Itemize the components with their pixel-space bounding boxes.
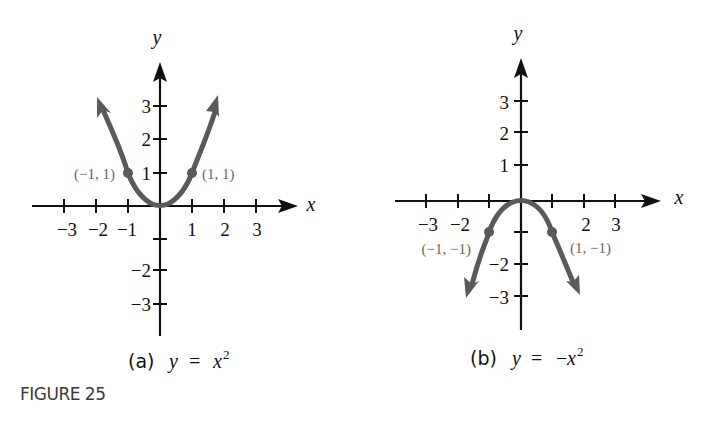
parabola-curve	[472, 201, 573, 285]
caption-b: (b) y = − x 2	[470, 344, 584, 370]
caption-letter: (a)	[128, 350, 154, 372]
x-tick-label: 2	[220, 219, 230, 240]
y-tick-label: 2	[142, 129, 152, 150]
panel-a: −3 −2 −1 1 2 3 3 2 1 −2 −3 x y (−1, 1) (…	[32, 26, 316, 373]
x-tick-label: 3	[252, 219, 262, 240]
caption-minus-sign: −	[556, 347, 567, 369]
caption-exponent: 2	[577, 344, 584, 359]
y-tick-label: 3	[500, 92, 510, 113]
figure-canvas: −3 −2 −1 1 2 3 3 2 1 −2 −3 x y (−1, 1) (…	[0, 0, 714, 422]
x-tick-label: 3	[611, 214, 621, 235]
y-axis-label: y	[512, 22, 523, 45]
caption-exponent: 2	[223, 347, 230, 362]
y-tick-label: −2	[489, 254, 509, 275]
caption-lhs: y	[510, 347, 521, 370]
x-tick-label: −3	[418, 214, 438, 235]
x-tick-label: 2	[581, 214, 591, 235]
x-tick-label: −1	[117, 219, 137, 240]
x-tick-label: −3	[57, 219, 77, 240]
panel-b: −3 −2 2 3 3 2 1 −2 −3 x y (−1, −1) (1, −…	[395, 22, 684, 370]
y-tick-label: 3	[142, 96, 152, 117]
caption-equals: =	[531, 347, 542, 369]
y-tick-label: 2	[500, 123, 510, 144]
caption-a: (a) y = x 2	[128, 347, 230, 373]
point-marker	[187, 168, 197, 178]
x-tick-label: −2	[450, 214, 470, 235]
x-axis-label: x	[306, 193, 316, 215]
x-tick-label: 1	[187, 219, 197, 240]
x-tick-label: −2	[88, 219, 108, 240]
y-tick-label: −2	[131, 260, 151, 281]
point-label: (1, −1)	[570, 240, 611, 257]
y-tick-label: −3	[131, 294, 151, 315]
y-tick-label: −3	[489, 287, 509, 308]
point-marker	[123, 168, 133, 178]
point-marker	[547, 227, 557, 237]
y-axis-label: y	[151, 26, 162, 49]
point-label: (−1, −1)	[422, 241, 471, 258]
caption-lhs: y	[167, 350, 178, 373]
y-tick-label: 1	[500, 155, 510, 176]
point-label: (1, 1)	[202, 166, 235, 183]
figure-label: FIGURE 25	[20, 384, 106, 404]
x-axis-label: x	[674, 186, 684, 208]
point-label: (−1, 1)	[74, 166, 115, 183]
point-marker	[484, 227, 494, 237]
caption-rhs: x	[566, 347, 576, 369]
caption-letter: (b)	[470, 347, 497, 369]
caption-equals: =	[189, 350, 200, 372]
caption-rhs: x	[212, 350, 222, 372]
y-tick-label: 1	[142, 163, 152, 184]
